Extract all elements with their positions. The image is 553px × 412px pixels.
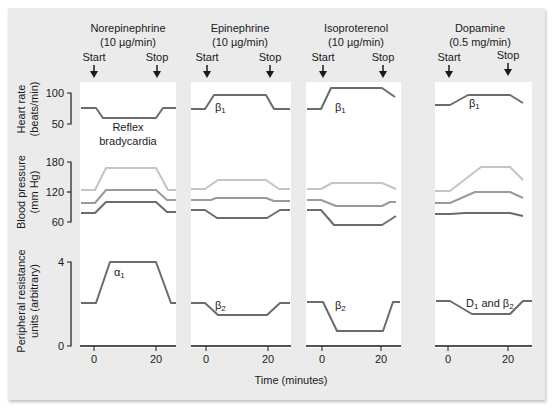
y-axis-titles: Heart rate (beats/min) Blood pressure (m… [15,81,40,352]
bp-axis-unit: (mm Hg) [28,171,40,214]
pr-axis-line [67,262,71,346]
hr-axis-title: Heart rate [15,85,27,134]
plot-panels [80,82,532,348]
bp-axis-title: Blood pressure [15,155,27,229]
x-tick-0: 0 [91,353,97,365]
annotation-d1-beta2-dopa: D1 and β2 [466,297,514,311]
start-label-4: Start [437,51,460,63]
tick-bp-120: 120 [46,186,64,198]
x-tick-20: 20 [502,353,514,365]
arrow-down-icon [319,65,327,78]
drug-dose-epinephrine: (10 µg/min) [212,36,268,48]
x-tick-labels: 0 20 0 20 0 20 0 20 [91,353,514,365]
arrow-down-icon [504,63,512,76]
x-tick-0: 0 [319,353,325,365]
drug-dose-isoproterenol: (10 µg/min) [328,36,384,48]
chart-svg: Norepinephrine (10 µg/min) Start Stop Ep… [0,0,553,412]
start-stop-arrows [90,63,512,78]
start-label-3: Start [311,51,334,63]
panel-isoproterenol [306,82,401,348]
x-tick-0: 0 [203,353,209,365]
drug-title-isoproterenol: Isoproterenol [324,22,388,34]
x-axis-title: Time (minutes) [255,374,328,386]
x-tick-0: 0 [445,353,451,365]
stop-label-2: Stop [259,51,282,63]
y-axes [67,93,71,346]
annotation-reflex: Reflex [112,121,144,133]
drug-dose-norepinephrine: (10 µg/min) [100,36,156,48]
tick-bp-180: 180 [46,156,64,168]
tick-pr-0: 0 [58,340,64,352]
stop-label-4: Stop [497,49,520,61]
drug-title-dopamine: Dopamine [455,22,505,34]
drug-title-epinephrine: Epinephrine [211,22,270,34]
tick-hr-100: 100 [46,87,64,99]
tick-hr-50: 50 [52,118,64,130]
tick-bp-60: 60 [52,216,64,228]
x-tick-20: 20 [262,353,274,365]
panel-headers: Norepinephrine (10 µg/min) Start Stop Ep… [82,22,519,63]
arrow-down-icon [445,65,453,78]
stop-label-3: Stop [372,51,395,63]
pr-axis-title: Peripheral resistance [15,249,27,352]
start-label-2: Start [195,51,218,63]
x-tick-20: 20 [150,353,162,365]
x-tick-20: 20 [375,353,387,365]
stop-label-1: Stop [146,51,169,63]
tick-pr-4: 4 [58,256,64,268]
arrow-down-icon [203,65,211,78]
hr-axis-unit: (beats/min) [28,81,40,136]
arrow-down-icon [153,65,161,78]
drug-dose-dopamine: (0.5 mg/min) [449,36,511,48]
arrow-down-icon [379,65,387,78]
pr-axis-unit: units (arbitrary) [28,264,40,338]
panel-epinephrine [191,82,291,348]
y-tick-labels: 100 50 180 120 60 4 0 [46,87,64,352]
annotation-bradycardia: bradycardia [99,135,157,147]
drug-title-norepinephrine: Norepinephrine [90,22,165,34]
start-label-1: Start [82,51,105,63]
arrow-down-icon [90,65,98,78]
arrow-down-icon [266,65,274,78]
hr-axis-line [67,93,71,124]
